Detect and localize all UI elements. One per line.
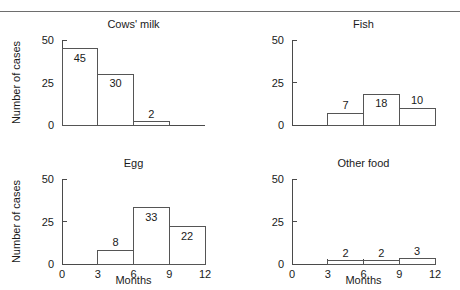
y-tick-label-other_food-1: 25 (272, 216, 284, 228)
y-tick-label-other_food-0: 0 (278, 258, 284, 270)
bar-value-label-egg-2: 33 (145, 211, 157, 223)
bar-other_food-3 (399, 259, 435, 264)
bar-cows_milk-2 (134, 122, 170, 125)
bar-value-label-other_food-2: 2 (378, 247, 384, 259)
y-tick-label-egg-1: 25 (42, 216, 54, 228)
y-tick-label-cows_milk-2: 50 (42, 34, 54, 46)
y-tick-label-egg-2: 50 (42, 173, 54, 185)
y-axis-title-egg: Number of cases (10, 179, 22, 263)
y-tick-label-cows_milk-0: 0 (48, 119, 54, 131)
chart-svg-other_food: Other food02550036912Months223 (230, 151, 460, 290)
chart-panel-fish: Fish0255071810 (230, 12, 460, 151)
y-tick-label-egg-0: 0 (48, 258, 54, 270)
bar-fish-3 (399, 108, 435, 125)
bar-value-label-cows_milk-1: 30 (110, 77, 122, 89)
panel-title-other_food: Other food (338, 157, 390, 169)
chart-panel-other-food: Other food02550036912Months223 (230, 151, 460, 290)
y-tick-label-fish-2: 50 (272, 34, 284, 46)
x-axis-title-other_food: Months (345, 274, 382, 286)
x-tick-label-other_food-4: 12 (429, 268, 441, 280)
chart-svg-cows_milk: Cows' milk02550Number of cases45302 (0, 12, 230, 151)
chart-panel-egg: Egg02550036912MonthsNumber of cases83322 (0, 151, 230, 290)
panel-title-egg: Egg (124, 157, 144, 169)
bar-value-label-cows_milk-0: 45 (74, 52, 86, 64)
x-tick-label-other_food-0: 0 (289, 268, 295, 280)
panel-title-cows_milk: Cows' milk (107, 18, 160, 30)
x-tick-label-egg-0: 0 (59, 268, 65, 280)
histogram-figure: Cows' milk02550Number of cases45302 Fish… (0, 0, 460, 290)
x-tick-label-egg-3: 9 (166, 268, 172, 280)
y-tick-label-fish-1: 25 (272, 77, 284, 89)
bar-value-label-fish-1: 7 (343, 99, 349, 111)
x-tick-label-other_food-3: 9 (396, 268, 402, 280)
bar-other_food-2 (364, 261, 400, 264)
bar-value-label-egg-1: 8 (113, 236, 119, 248)
panel-title-fish: Fish (353, 18, 374, 30)
bar-value-label-other_food-3: 3 (414, 245, 420, 257)
x-tick-label-egg-1: 3 (95, 268, 101, 280)
bar-value-label-egg-3: 22 (181, 230, 193, 242)
x-tick-label-other_food-1: 3 (325, 268, 331, 280)
y-tick-label-cows_milk-1: 25 (42, 77, 54, 89)
y-axis-title-cows_milk: Number of cases (10, 40, 22, 124)
chart-svg-egg: Egg02550036912MonthsNumber of cases83322 (0, 151, 230, 290)
chart-svg-fish: Fish0255071810 (230, 12, 460, 151)
bar-value-label-other_food-1: 2 (343, 247, 349, 259)
bar-egg-1 (98, 250, 134, 264)
y-tick-label-other_food-2: 50 (272, 173, 284, 185)
bar-value-label-fish-3: 10 (411, 94, 423, 106)
x-tick-label-egg-4: 12 (199, 268, 211, 280)
bar-fish-1 (328, 113, 364, 125)
bar-other_food-1 (328, 261, 364, 264)
bar-value-label-cows_milk-2: 2 (148, 108, 154, 120)
bar-value-label-fish-2: 18 (375, 97, 387, 109)
y-tick-label-fish-0: 0 (278, 119, 284, 131)
x-axis-title-egg: Months (115, 274, 152, 286)
chart-panel-cows-milk: Cows' milk02550Number of cases45302 (0, 12, 230, 151)
